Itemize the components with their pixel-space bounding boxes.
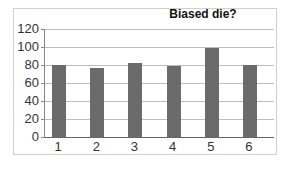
y-tick-mark <box>41 137 45 138</box>
chart-title: Biased die? <box>133 7 273 21</box>
y-tick-mark <box>41 47 45 48</box>
y-tick-mark <box>41 101 45 102</box>
x-tick-label: 6 <box>239 139 259 154</box>
bar-2 <box>90 68 104 137</box>
plot-area <box>44 29 274 138</box>
bar-1 <box>52 65 66 137</box>
y-tick-label: 20 <box>0 112 39 125</box>
y-tick-label: 120 <box>0 22 39 35</box>
y-tick-mark <box>41 29 45 30</box>
bar-4 <box>167 66 181 137</box>
y-tick-label: 100 <box>0 40 39 53</box>
y-tick-mark <box>41 83 45 84</box>
y-tick-label: 40 <box>0 94 39 107</box>
y-tick-label: 0 <box>0 130 39 143</box>
gridline <box>45 47 274 48</box>
bar-5 <box>205 48 219 137</box>
y-tick-label: 80 <box>0 58 39 71</box>
gridline <box>45 65 274 66</box>
x-tick-label: 5 <box>201 139 221 154</box>
gridline <box>45 29 274 30</box>
y-tick-label: 60 <box>0 76 39 89</box>
y-tick-mark <box>41 65 45 66</box>
bar-6 <box>243 65 257 137</box>
x-tick-label: 3 <box>124 139 144 154</box>
x-tick-label: 1 <box>48 139 68 154</box>
x-tick-label: 2 <box>86 139 106 154</box>
y-tick-mark <box>41 119 45 120</box>
x-tick-label: 4 <box>163 139 183 154</box>
gridline <box>45 83 274 84</box>
gridline <box>45 119 274 120</box>
bar-3 <box>128 63 142 137</box>
gridline <box>45 101 274 102</box>
